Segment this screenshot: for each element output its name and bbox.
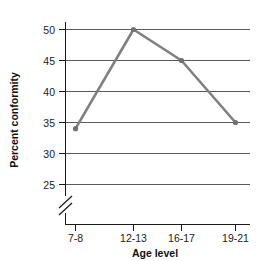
data-series bbox=[73, 27, 238, 131]
x-tick-labels: 7-8 12-13 16-17 19-21 bbox=[68, 232, 249, 244]
y-axis-title: Percent conformity bbox=[8, 72, 20, 168]
y-tick-label-25: 25 bbox=[43, 179, 55, 191]
data-point-7-8 bbox=[73, 126, 78, 131]
line-chart: 50 45 40 35 30 25 7-8 12-13 16-17 19-21 … bbox=[0, 0, 266, 261]
x-tick-label-2: 16-17 bbox=[168, 232, 195, 244]
x-axis-title: Age level bbox=[132, 247, 178, 259]
chart-canvas: 50 45 40 35 30 25 7-8 12-13 16-17 19-21 … bbox=[0, 0, 266, 261]
x-tick-label-3: 19-21 bbox=[222, 232, 249, 244]
y-axis-break-icon bbox=[59, 196, 72, 215]
y-tick-label-50: 50 bbox=[43, 24, 55, 36]
y-tick-label-35: 35 bbox=[43, 117, 55, 129]
data-point-19-21 bbox=[233, 120, 238, 125]
y-tick-marks bbox=[59, 30, 65, 185]
x-tick-label-1: 12-13 bbox=[120, 232, 147, 244]
x-tick-label-0: 7-8 bbox=[68, 232, 83, 244]
y-tick-label-40: 40 bbox=[43, 86, 55, 98]
series-line-percent-conformity bbox=[76, 30, 236, 129]
data-point-12-13 bbox=[131, 27, 136, 32]
data-point-16-17 bbox=[179, 58, 184, 63]
y-tick-labels: 50 45 40 35 30 25 bbox=[43, 24, 55, 191]
y-tick-label-30: 30 bbox=[43, 148, 55, 160]
y-tick-label-45: 45 bbox=[43, 55, 55, 67]
